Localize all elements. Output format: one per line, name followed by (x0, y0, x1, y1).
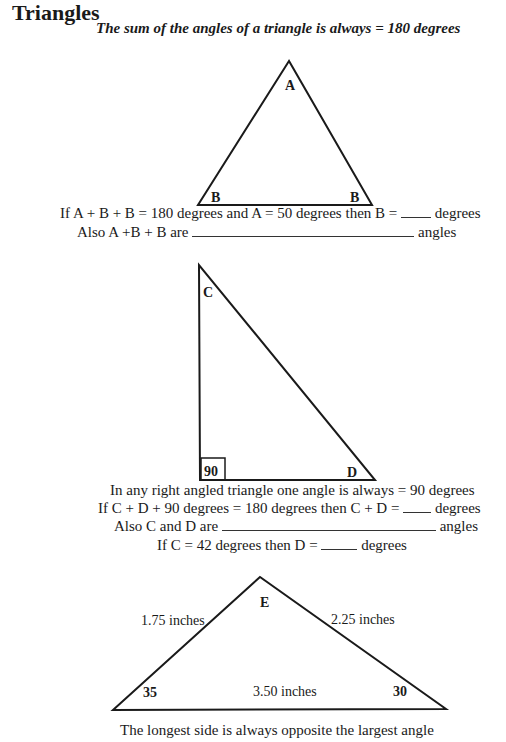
side-base-length: 3.50 inches (253, 684, 317, 699)
question-1b: Also A +B + B are angles (77, 224, 456, 241)
label-c: C (203, 285, 213, 300)
label-90: 90 (204, 464, 218, 479)
answer-blank-c-plus-d[interactable] (403, 500, 431, 513)
triangle-3: E 35 30 1.75 inches 2.25 inches 3.50 inc… (113, 577, 446, 710)
question-2a: If C + D + 90 degrees = 180 degrees then… (98, 500, 481, 517)
label-d: D (347, 465, 357, 480)
label-e: E (260, 595, 269, 610)
side-right-length: 2.25 inches (331, 612, 395, 627)
longest-side-statement: The longest side is always opposite the … (120, 722, 434, 739)
label-a: A (285, 78, 296, 93)
label-b-left: B (211, 190, 220, 205)
question-2c: If C = 42 degrees then D = degrees (157, 537, 407, 554)
triangle-1: A B B (198, 61, 372, 205)
side-left-length: 1.75 inches (141, 613, 205, 628)
answer-blank-angle-type-1[interactable] (192, 224, 414, 237)
label-30: 30 (393, 684, 407, 699)
answer-blank-d[interactable] (321, 537, 357, 550)
answer-blank-angle-type-2[interactable] (222, 518, 436, 531)
question-2b: Also C and D are angles (114, 518, 478, 535)
label-35: 35 (143, 685, 157, 700)
triangle-diagrams: A B B C 90 D E 35 30 1.75 inches 2.25 in… (0, 0, 506, 742)
triangle-2: C 90 D (199, 265, 375, 480)
answer-blank-b[interactable] (401, 205, 431, 218)
question-1a: If A + B + B = 180 degrees and A = 50 de… (60, 205, 481, 222)
label-b-right: B (350, 190, 359, 205)
right-angle-statement: In any right angled triangle one angle i… (110, 482, 475, 499)
